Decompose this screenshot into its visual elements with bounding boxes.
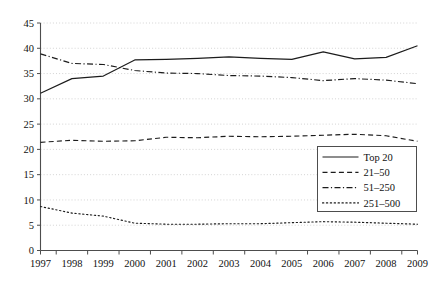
legend-label-51-250: 51–250	[364, 182, 396, 193]
x-tick-label-2008: 2008	[376, 258, 397, 269]
y-tick-label-0: 0	[29, 245, 34, 256]
legend-label-21-50: 21–50	[364, 167, 390, 178]
chart-legend: Top 2021–5051–250251–500	[318, 147, 417, 212]
legend-label-top-20: Top 20	[364, 152, 393, 163]
x-tick-label-2009: 2009	[407, 258, 428, 269]
y-tick-label-30: 30	[24, 93, 35, 104]
y-tick-label-40: 40	[24, 43, 35, 54]
x-tick-label-2004: 2004	[250, 258, 272, 269]
legend-label-251-500: 251–500	[364, 198, 401, 209]
x-tick-label-2005: 2005	[281, 258, 302, 269]
x-tick-label-2007: 2007	[344, 258, 365, 269]
y-tick-label-45: 45	[24, 18, 35, 29]
x-tick-label-1999: 1999	[93, 258, 114, 269]
y-tick-label-35: 35	[24, 68, 35, 79]
chart-canvas: 051015202530354045 199719981999200020012…	[0, 0, 439, 284]
y-tick-label-25: 25	[24, 119, 35, 130]
x-tick-label-2002: 2002	[187, 258, 208, 269]
y-tick-label-15: 15	[24, 169, 35, 180]
y-tick-label-10: 10	[24, 195, 35, 206]
series-line-21-50	[41, 134, 418, 142]
x-axis-ticks: 1997199819992000200120022003200420052006…	[30, 251, 428, 270]
y-tick-label-5: 5	[29, 220, 34, 231]
x-tick-label-2000: 2000	[124, 258, 145, 269]
x-tick-label-2001: 2001	[156, 258, 177, 269]
x-tick-label-2006: 2006	[313, 258, 334, 269]
x-tick-label-2003: 2003	[219, 258, 240, 269]
line-chart-figure: 051015202530354045 199719981999200020012…	[0, 0, 439, 284]
series-line-top-20	[41, 46, 418, 94]
y-axis-ticks: 051015202530354045	[24, 18, 41, 257]
x-tick-label-1998: 1998	[61, 258, 82, 269]
y-tick-label-20: 20	[24, 144, 35, 155]
x-tick-label-1997: 1997	[30, 258, 51, 269]
